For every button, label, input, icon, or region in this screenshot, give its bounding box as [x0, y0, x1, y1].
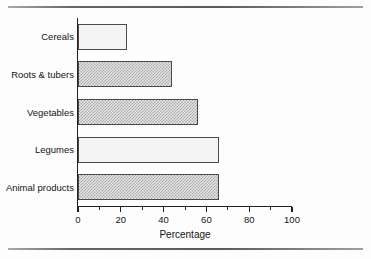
plot-area: 020406080100	[78, 18, 292, 206]
x-tick-mark	[163, 207, 164, 212]
x-minor-tick-mark	[142, 207, 143, 210]
bar	[78, 61, 172, 87]
bar-row	[78, 61, 292, 87]
x-tick-mark	[206, 207, 207, 212]
x-tick-mark	[249, 207, 250, 212]
category-label: Animal products	[6, 182, 74, 193]
bar	[78, 174, 219, 200]
bar-row	[78, 174, 292, 200]
bar-row	[78, 137, 292, 163]
x-tick-label: 20	[116, 214, 127, 225]
page-rule-bottom	[8, 248, 363, 250]
x-tick-label: 60	[201, 214, 212, 225]
x-tick-mark	[120, 207, 121, 212]
bar	[78, 99, 198, 125]
category-label: Vegetables	[27, 107, 74, 118]
x-minor-tick-mark	[99, 207, 100, 210]
category-label: Legumes	[35, 144, 74, 155]
x-minor-tick-mark	[270, 207, 271, 210]
x-minor-tick-mark	[185, 207, 186, 210]
category-label: Cereals	[41, 31, 74, 42]
x-tick-label: 40	[158, 214, 169, 225]
bar-row	[78, 99, 292, 125]
figure-container: 020406080100 CerealsRoots & tubersVegeta…	[0, 0, 371, 259]
x-minor-tick-mark	[227, 207, 228, 210]
category-label: Roots & tubers	[11, 69, 74, 80]
bar-row	[78, 24, 292, 50]
x-tick-label: 100	[284, 214, 300, 225]
bar	[78, 24, 127, 50]
x-tick-label: 0	[75, 214, 80, 225]
x-tick-mark	[77, 207, 78, 212]
x-tick-label: 80	[244, 214, 255, 225]
page-rule-top	[8, 6, 363, 8]
x-tick-mark	[291, 207, 292, 212]
bar	[78, 137, 219, 163]
x-axis-title: Percentage	[78, 229, 292, 240]
